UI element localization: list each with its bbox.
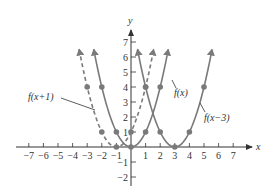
data-point-f-x-3-: [201, 84, 207, 90]
data-point-f-x-3-: [187, 129, 193, 135]
y-ticks: −2−11234567: [117, 37, 136, 183]
data-point-f-x-: [143, 129, 149, 135]
data-point-f-x-: [128, 144, 134, 150]
data-point-f-x-1-: [114, 144, 120, 150]
x-tick-label: −5: [53, 150, 64, 161]
x-tick-label: 5: [202, 150, 207, 161]
data-point-f-x-1-: [128, 129, 134, 135]
data-point-f-x-: [114, 129, 120, 135]
y-axis-label: y: [127, 15, 133, 26]
y-tick-label: 4: [123, 82, 128, 93]
curve-arrow-f-x-: [94, 50, 95, 54]
y-tick-label: −1: [117, 157, 128, 168]
curve-arrow-f-x-3-: [138, 50, 139, 54]
x-axis-label: x: [255, 141, 261, 152]
x-tick-label: 1: [143, 150, 148, 161]
label-f-x-plus-1: f(x+1): [28, 91, 54, 103]
x-tick-label: −3: [82, 150, 93, 161]
chart-canvas: x y −7−6−5−4−3−2−11234567 −2−11234567 f(…: [0, 0, 269, 194]
x-tick-label: −6: [38, 150, 49, 161]
x-tick-label: 7: [231, 150, 236, 161]
x-tick-label: −4: [67, 150, 78, 161]
y-tick-label: 6: [123, 52, 128, 63]
y-tick-label: 5: [123, 67, 128, 78]
data-point-f-x-3-: [143, 84, 149, 90]
data-point-f-x-1-: [99, 129, 105, 135]
x-tick-label: −7: [23, 150, 34, 161]
y-tick-label: 2: [123, 112, 128, 123]
curve-arrow-f-x-1-: [79, 50, 80, 54]
x-tick-label: 6: [216, 150, 221, 161]
x-tick-label: 3: [172, 150, 177, 161]
x-tick-label: 2: [158, 150, 163, 161]
x-tick-label: 4: [187, 150, 192, 161]
data-point-f-x-3-: [157, 129, 163, 135]
data-point-f-x-1-: [84, 84, 90, 90]
data-point-f-x-: [157, 84, 163, 90]
label-f-x-minus-3: f(x−3): [204, 112, 230, 124]
y-tick-label: 3: [123, 97, 128, 108]
y-tick-label: 7: [123, 37, 128, 48]
label-f-x: f(x): [174, 87, 189, 99]
y-tick-label: 1: [123, 127, 128, 138]
y-tick-label: −2: [117, 172, 128, 183]
curve-f-x-3-: [138, 50, 212, 148]
leader-line-f-x-minus-3: [200, 103, 205, 112]
x-tick-label: −2: [96, 150, 107, 161]
data-point-f-x-: [99, 84, 105, 90]
data-point-f-x-3-: [172, 144, 178, 150]
